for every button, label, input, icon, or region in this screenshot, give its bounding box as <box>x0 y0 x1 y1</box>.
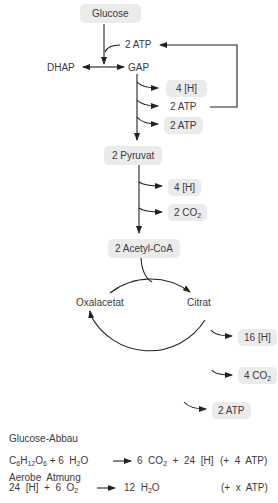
output-4h-glycolysis: 4 [H] <box>166 80 207 97</box>
arrow-atp-input <box>105 45 120 52</box>
equation-glucose-abbau-lhs: C6H12O6 + 6 H2O <box>9 455 88 467</box>
node-citrat: Citrat <box>187 296 211 309</box>
arrow-acetyl-in <box>141 258 152 282</box>
output-2co2-pyruvat: 2 CO2 <box>168 204 207 221</box>
label-atp-input: 2 ATP <box>125 38 152 51</box>
equation-glucose-abbau-title: Glucose-Abbau <box>9 433 78 445</box>
node-acetyl-coa: 2 Acetyl-CoA <box>108 239 180 258</box>
equation-glucose-abbau-rhs: 6 CO2 + 24 [H] <box>137 455 213 467</box>
arrow-atp-feedback <box>160 45 237 107</box>
node-oxalacetat: Oxalacetat <box>76 296 124 309</box>
node-pyruvat: 2 Pyruvat <box>104 146 162 165</box>
equation-aerobe-atmung-rhs: 12 H2O <box>124 482 160 494</box>
output-2atp-glycolysis-2: 2 ATP <box>164 117 203 134</box>
node-gap: GAP <box>128 61 149 74</box>
node-glucose: Glucose <box>80 4 141 23</box>
output-4h-pyruvat: 4 [H] <box>168 179 201 196</box>
cycle-arc-right-bottom <box>90 314 205 351</box>
output-2atp-glycolysis-1: 2 ATP <box>170 100 197 113</box>
output-4co2-cycle: 4 CO2 <box>238 367 277 384</box>
equation-aerobe-atmung-note: (+ x ATP) <box>221 482 268 494</box>
output-2atp-cycle: 2 ATP <box>212 402 251 419</box>
equation-aerobe-atmung-lhs: 24 [H] + 6 O2 <box>9 482 78 494</box>
output-16h-cycle: 16 [H] <box>238 329 277 346</box>
node-dhap: DHAP <box>47 61 75 74</box>
equation-glucose-abbau-note: (+ 4 ATP) <box>220 455 267 467</box>
